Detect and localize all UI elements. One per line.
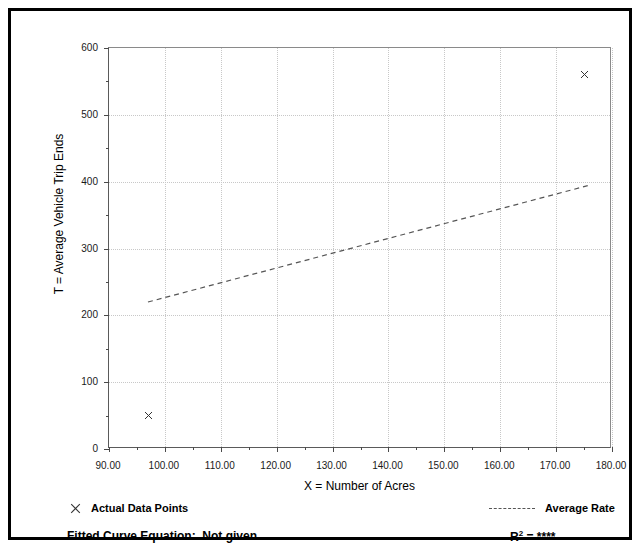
y-axis-tick-label: 600 bbox=[62, 42, 98, 53]
dashed-line-icon bbox=[489, 508, 535, 509]
gridline-horizontal bbox=[109, 115, 610, 116]
r-squared-stars: **** bbox=[537, 530, 556, 544]
y-tick bbox=[104, 382, 109, 383]
y-axis-tick-label: 200 bbox=[62, 309, 98, 320]
x-axis-tick-label: 130.00 bbox=[316, 460, 347, 471]
gridline-horizontal bbox=[109, 249, 610, 250]
x-tick-minor bbox=[193, 447, 194, 450]
x-tick-minor bbox=[305, 447, 306, 450]
x-tick-minor bbox=[361, 447, 362, 450]
legend-label-average: Average Rate bbox=[545, 502, 615, 514]
x-axis-tick-label: 100.00 bbox=[149, 460, 180, 471]
data-point-marker bbox=[580, 70, 589, 79]
x-tick bbox=[388, 447, 389, 452]
x-tick bbox=[333, 447, 334, 452]
x-tick-minor bbox=[137, 447, 138, 450]
y-tick bbox=[104, 48, 109, 49]
fitted-curve-equation: Fitted Curve Equation: Not given bbox=[67, 529, 257, 543]
y-axis-tick-label: 400 bbox=[62, 175, 98, 186]
legend-item-actual-data-points: Actual Data Points bbox=[70, 502, 188, 514]
gridline-vertical bbox=[221, 48, 222, 447]
chart-legend: Actual Data Points Average Rate bbox=[22, 499, 640, 525]
x-axis-title: X = Number of Acres bbox=[108, 479, 611, 493]
x-tick bbox=[556, 447, 557, 452]
gridline-horizontal bbox=[109, 382, 610, 383]
equation-row: Fitted Curve Equation: Not given R2 = **… bbox=[22, 527, 640, 548]
y-tick bbox=[104, 315, 109, 316]
x-tick bbox=[165, 447, 166, 452]
gridline-vertical bbox=[500, 48, 501, 447]
plot-area bbox=[108, 47, 611, 448]
x-tick bbox=[612, 447, 613, 452]
legend-item-average-rate: Average Rate bbox=[489, 502, 615, 514]
y-tick-minor bbox=[106, 148, 109, 149]
gridline-vertical bbox=[165, 48, 166, 447]
y-axis-tick-label: 0 bbox=[62, 443, 98, 454]
x-marker-icon bbox=[70, 503, 81, 514]
x-axis-tick-label: 120.00 bbox=[260, 460, 291, 471]
data-point-marker bbox=[144, 411, 153, 420]
y-axis-tick-label: 500 bbox=[62, 108, 98, 119]
chart-frame: 90.00100.00110.00120.00130.00140.00150.0… bbox=[8, 8, 632, 540]
x-tick bbox=[277, 447, 278, 452]
gridline-vertical bbox=[612, 48, 613, 447]
y-tick bbox=[104, 249, 109, 250]
r-squared-exponent: 2 bbox=[519, 529, 523, 538]
x-tick-minor bbox=[584, 447, 585, 450]
y-tick-minor bbox=[106, 215, 109, 216]
average-rate-trendline bbox=[109, 48, 610, 447]
x-tick bbox=[221, 447, 222, 452]
legend-label-actual: Actual Data Points bbox=[91, 502, 188, 514]
y-tick-minor bbox=[106, 349, 109, 350]
gridline-vertical bbox=[388, 48, 389, 447]
x-tick-minor bbox=[249, 447, 250, 450]
x-tick bbox=[500, 447, 501, 452]
x-tick bbox=[444, 447, 445, 452]
x-axis-tick-label: 150.00 bbox=[428, 460, 459, 471]
x-tick bbox=[109, 447, 110, 452]
gridline-vertical bbox=[277, 48, 278, 447]
gridline-vertical bbox=[444, 48, 445, 447]
r-squared-label: R bbox=[510, 530, 519, 544]
x-axis-tick-label: 110.00 bbox=[205, 460, 235, 471]
r-squared-value: R2 = **** bbox=[510, 529, 556, 544]
x-axis-tick-label: 90.00 bbox=[95, 460, 120, 471]
gridline-vertical bbox=[556, 48, 557, 447]
gridline-vertical bbox=[333, 48, 334, 447]
x-tick-minor bbox=[416, 447, 417, 450]
y-axis-title: T = Average Vehicle Trip Ends bbox=[52, 104, 66, 324]
y-tick bbox=[104, 115, 109, 116]
y-tick-minor bbox=[106, 282, 109, 283]
y-tick-minor bbox=[106, 81, 109, 82]
y-tick bbox=[104, 449, 109, 450]
y-tick-minor bbox=[106, 416, 109, 417]
x-axis-tick-label: 170.00 bbox=[540, 460, 571, 471]
x-axis-tick-label: 140.00 bbox=[372, 460, 403, 471]
gridline-horizontal bbox=[109, 182, 610, 183]
y-axis-tick-label: 100 bbox=[62, 376, 98, 387]
r-squared-equals: = bbox=[526, 530, 533, 544]
x-axis-tick-label: 160.00 bbox=[484, 460, 515, 471]
gridline-horizontal bbox=[109, 315, 610, 316]
x-tick-minor bbox=[528, 447, 529, 450]
chart-page: 90.00100.00110.00120.00130.00140.00150.0… bbox=[0, 0, 640, 548]
x-tick-minor bbox=[472, 447, 473, 450]
y-tick bbox=[104, 182, 109, 183]
x-axis-tick-label: 180.00 bbox=[596, 460, 627, 471]
y-axis-tick-label: 300 bbox=[62, 242, 98, 253]
